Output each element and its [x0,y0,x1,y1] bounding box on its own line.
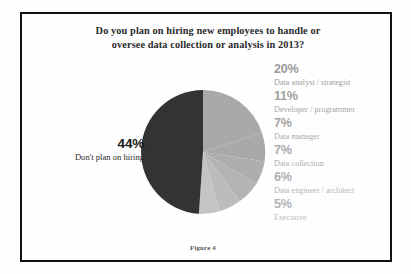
pie-slices [141,90,265,214]
legend-item-data-engineer-architect: 6% Data engineer / architect [274,171,411,196]
legend-percent: 20% [274,63,411,77]
legend-label: Data analyst / strategist [274,77,411,88]
callout-percent: 44% [24,136,144,151]
legend-label: Executive [274,212,411,223]
legend-percent: 11% [274,90,411,104]
figure-caption: Figure 4 [167,244,239,251]
legend-label: Data collection [274,158,411,169]
pie-chart-svg [139,88,267,216]
legend-percent: 6% [274,171,411,185]
legend-percent: 7% [274,144,411,158]
legend-item-data-collection: 7% Data collection [274,144,411,169]
legend: 20% Data analyst / strategist 11% Develo… [274,63,411,226]
legend-label: Developer / programmer [274,104,411,115]
chart-title-line-2: oversee data collection or analysis in 2… [40,38,376,52]
callout-label: Don't plan on hiring [24,151,144,163]
legend-item-data-manager: 7% Data manager [274,117,411,142]
legend-item-data-analyst-strategist: 20% Data analyst / strategist [274,63,411,88]
pie-chart [139,88,267,216]
legend-label: Data manager [274,131,411,142]
legend-percent: 7% [274,117,411,131]
chart-title-line-1: Do you plan on hiring new employees to h… [96,25,321,36]
pie-slice-dont-plan-on-hiring [141,90,203,214]
chart-title: Do you plan on hiring new employees to h… [40,24,376,52]
legend-percent: 5% [274,198,411,212]
legend-item-executive: 5% Executive [274,198,411,223]
figure-frame: Do you plan on hiring new employees to h… [20,12,392,262]
callout-dont-plan-on-hiring: 44% Don't plan on hiring [24,136,144,163]
legend-label: Data engineer / architect [274,185,411,196]
legend-item-developer-programmer: 11% Developer / programmer [274,90,411,115]
figure-page: Do you plan on hiring new employees to h… [0,0,411,274]
figure-frame-inner: Do you plan on hiring new employees to h… [22,14,390,260]
